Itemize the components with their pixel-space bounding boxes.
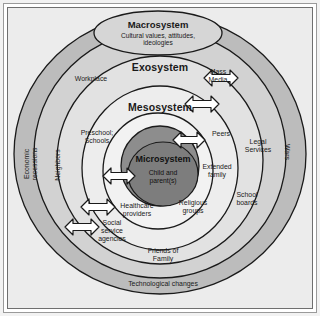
- diagram-stage: Macrosystem Cultural values, attitudes, …: [8, 8, 312, 308]
- microsystem-inner-blob: [128, 142, 198, 206]
- ecological-systems-diagram: Macrosystem Cultural values, attitudes, …: [0, 0, 320, 316]
- macrosystem-callout-ellipse: [94, 11, 222, 55]
- diagram-canvas: [8, 8, 312, 308]
